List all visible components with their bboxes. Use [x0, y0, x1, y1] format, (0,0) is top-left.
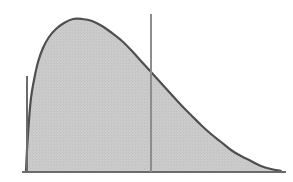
figure-root — [0, 0, 293, 182]
density-area-fill — [26, 19, 281, 172]
density-chart — [0, 0, 293, 182]
